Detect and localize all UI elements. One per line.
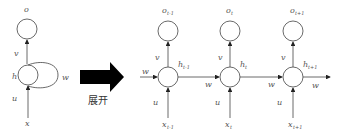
output-node <box>17 19 37 39</box>
label-h: h <box>12 72 17 81</box>
svg-text:u: u <box>277 98 282 107</box>
svg-text:v: v <box>281 53 286 62</box>
label-w-in: w <box>142 67 149 76</box>
unfolded-rnn: w o t-1 v h t-1 u x t-1 w o t v h t <box>140 6 330 130</box>
svg-text:t+1: t+1 <box>293 124 302 130</box>
svg-text:t-1: t-1 <box>167 10 174 16</box>
folded-rnn: o v h w u x <box>12 5 69 128</box>
svg-text:w: w <box>268 80 275 89</box>
svg-text:u: u <box>215 98 220 107</box>
label-o: o <box>24 5 29 14</box>
svg-text:t+1: t+1 <box>308 64 317 70</box>
svg-text:t-1: t-1 <box>167 124 174 130</box>
label-u: u <box>12 94 17 103</box>
label-v: v <box>14 49 19 58</box>
svg-text:u: u <box>153 98 158 107</box>
unfold-label: 展开 <box>88 95 108 106</box>
svg-text:t: t <box>231 10 234 16</box>
svg-text:t-1: t-1 <box>183 64 190 70</box>
timestep-t-plus-1: o t+1 v h t+1 u x t+1 <box>277 6 317 130</box>
hidden-node <box>18 65 38 85</box>
svg-text:t: t <box>245 64 248 70</box>
rnn-diagram: o v h w u x 展开 w o t-1 v h t-1 u <box>0 0 340 138</box>
label-w: w <box>62 73 69 82</box>
svg-text:v: v <box>155 53 160 62</box>
unfold-arrow: 展开 <box>80 62 124 106</box>
svg-text:w: w <box>205 80 212 89</box>
svg-text:v: v <box>218 53 223 62</box>
label-x: x <box>25 119 30 128</box>
svg-text:t: t <box>230 124 233 130</box>
timestep-t: o t v h t u x t <box>215 6 248 130</box>
svg-text:t+1: t+1 <box>295 10 304 16</box>
svg-text:w: w <box>312 81 319 90</box>
timestep-t-1: o t-1 v h t-1 u x t-1 <box>153 6 190 130</box>
